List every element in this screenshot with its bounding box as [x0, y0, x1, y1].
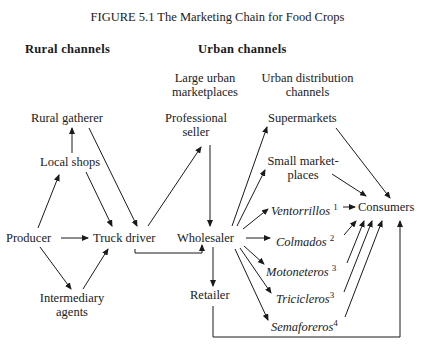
- arrow-ruralgatherer-truckdriver: [89, 128, 137, 226]
- arrow-localshops-truckdriver: [86, 172, 112, 226]
- arrow-wholesaler-ventorrillos: [243, 209, 268, 229]
- arrow-intermediary-truckdriver: [83, 249, 108, 289]
- arrow-smallmarket-consumers: [332, 174, 366, 196]
- arrow-producer-intermediary: [40, 247, 71, 289]
- arrow-truckdriver-profseller: [148, 147, 201, 226]
- arrow-motoneteros-consumers: [347, 221, 364, 263]
- arrow-colmados-consumers: [344, 221, 356, 235]
- arrow-retailer-consumers: [213, 221, 400, 337]
- arrows-layer: [0, 0, 435, 349]
- arrow-supermarkets-consumers: [336, 128, 390, 198]
- arrow-wholesaler-motoneteros: [244, 246, 264, 264]
- arrow-semaforeros-consumers: [345, 221, 382, 317]
- arrow-truckdriver-wholesaler: [135, 245, 202, 253]
- arrow-wholesaler-semaforeros: [235, 249, 268, 320]
- arrow-producer-localshops: [38, 175, 59, 228]
- arrow-wholesaler-smallmarket: [237, 170, 265, 226]
